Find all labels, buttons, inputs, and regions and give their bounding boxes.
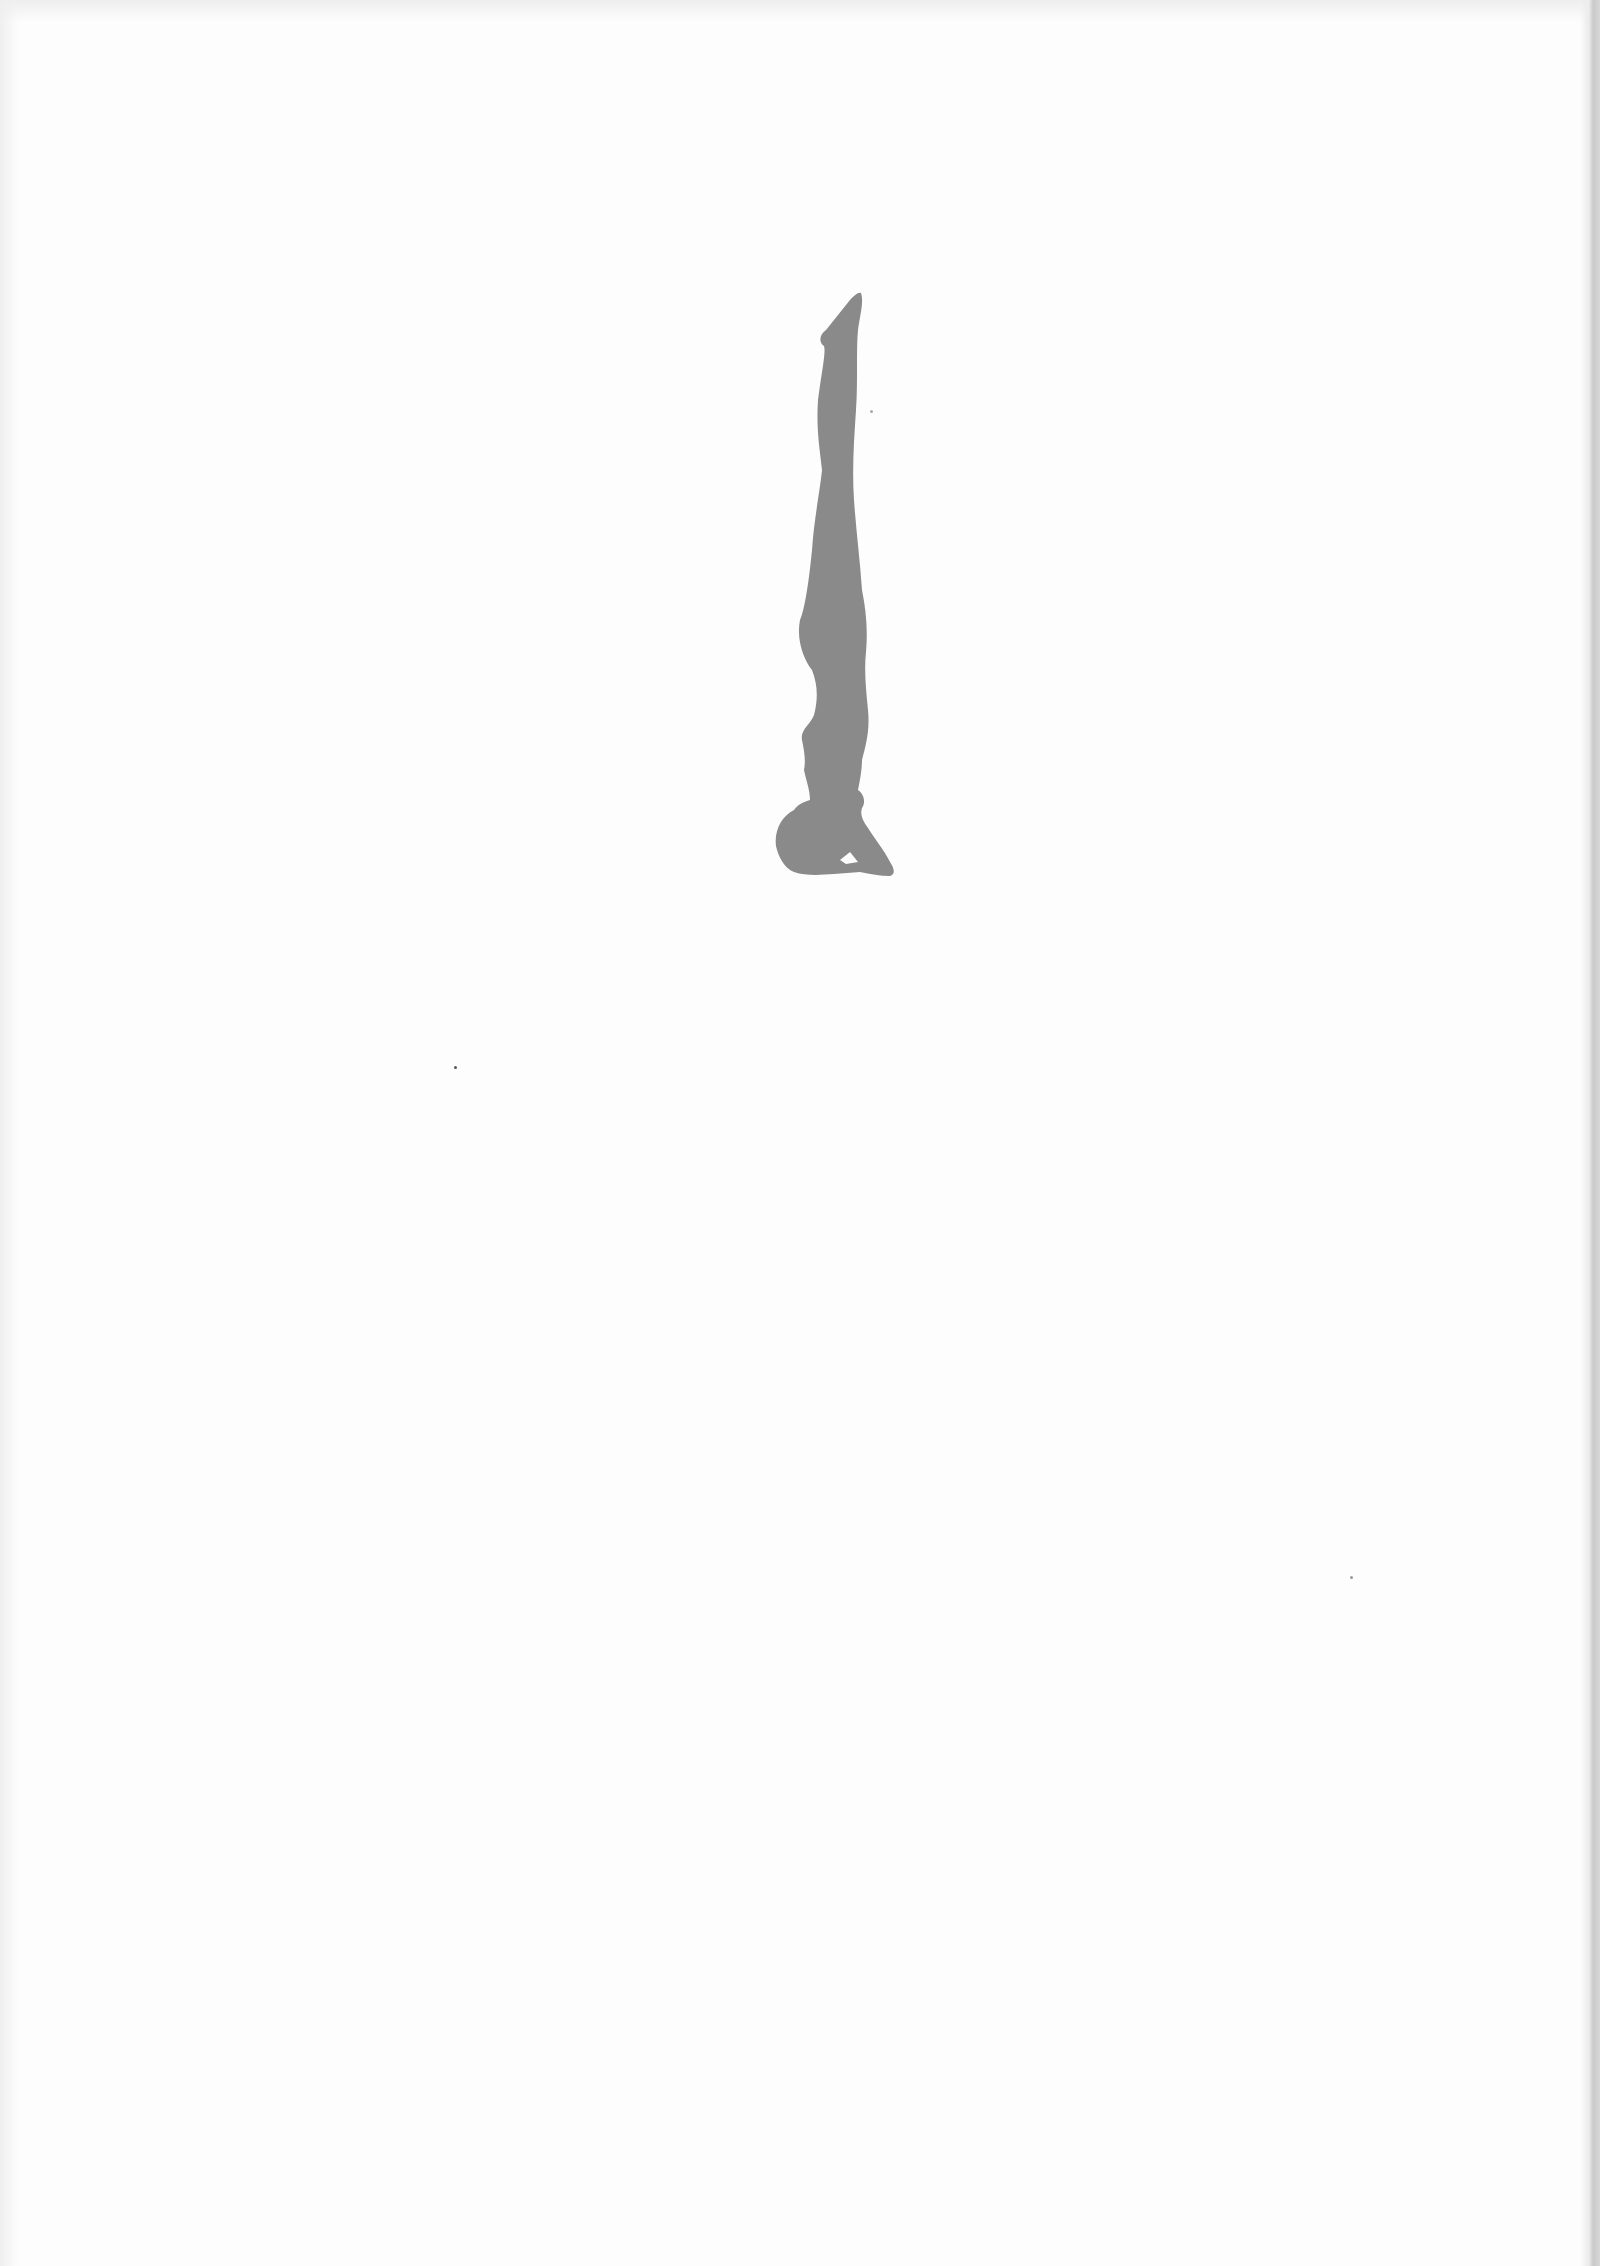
- scan-right-edge: [1588, 0, 1600, 2266]
- scan-speck: [870, 410, 873, 413]
- scan-speck: [1350, 1576, 1353, 1579]
- scan-left-shadow: [0, 0, 18, 2266]
- headstand-silhouette-icon: [770, 290, 900, 880]
- scan-speck: [454, 1066, 457, 1069]
- scanned-page: [0, 0, 1600, 2266]
- scan-top-shadow: [0, 0, 1600, 22]
- headstand-silhouette-figure: [770, 290, 900, 880]
- scan-right-shadow-inner: [1580, 0, 1588, 2266]
